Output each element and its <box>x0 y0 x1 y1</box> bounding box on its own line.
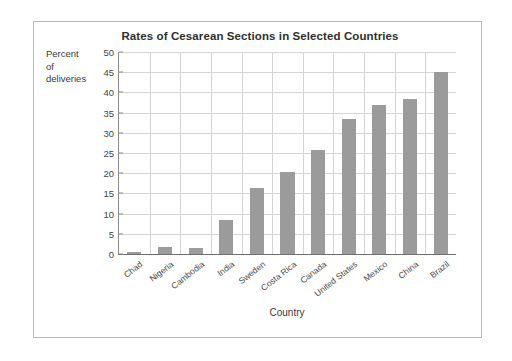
y-tick-mark <box>119 213 123 214</box>
y-tick-mark <box>119 112 123 113</box>
x-axis-title: Country <box>118 307 456 318</box>
y-tick-label: 30 <box>103 127 114 138</box>
y-tick-mark <box>119 153 123 154</box>
bar-mexico[interactable] <box>372 105 386 254</box>
y-tick-mark <box>119 72 123 73</box>
bar-united-states[interactable] <box>342 119 356 254</box>
bar-nigeria[interactable] <box>158 247 172 254</box>
bar-brazil[interactable] <box>434 72 448 254</box>
plot-area: 05101520253035404550 <box>118 52 456 255</box>
gridline-vertical <box>333 52 334 254</box>
bar-sweden[interactable] <box>250 188 264 254</box>
bar-cambodia[interactable] <box>189 248 203 254</box>
y-tick-mark <box>119 233 123 234</box>
y-tick-label: 25 <box>103 148 114 159</box>
y-tick-label: 15 <box>103 188 114 199</box>
y-tick-mark <box>119 132 123 133</box>
gridline-vertical <box>150 52 151 254</box>
gridline-horizontal <box>119 72 456 73</box>
bar-china[interactable] <box>403 99 417 254</box>
gridline-vertical <box>364 52 365 254</box>
y-axis-caption: Percent of deliveries <box>46 48 86 86</box>
y-tick-label: 45 <box>103 67 114 78</box>
bar-chad[interactable] <box>127 252 141 254</box>
gridline-horizontal <box>119 52 456 53</box>
gridline-vertical <box>242 52 243 254</box>
y-tick-label: 10 <box>103 208 114 219</box>
bar-india[interactable] <box>219 220 233 254</box>
gridline-vertical <box>211 52 212 254</box>
gridline-vertical <box>180 52 181 254</box>
y-axis-caption-line-1: Percent <box>46 48 86 61</box>
gridline-vertical <box>425 52 426 254</box>
y-tick-label: 35 <box>103 107 114 118</box>
y-tick-label: 40 <box>103 87 114 98</box>
y-tick-mark <box>119 92 123 93</box>
y-tick-label: 0 <box>109 249 114 260</box>
y-tick-label: 50 <box>103 47 114 58</box>
bar-canada[interactable] <box>311 150 325 254</box>
y-tick-label: 5 <box>109 228 114 239</box>
y-tick-mark <box>119 173 123 174</box>
bar-costa-rica[interactable] <box>280 172 294 254</box>
chart-title: Rates of Cesarean Sections in Selected C… <box>100 30 420 42</box>
y-tick-mark <box>119 254 123 255</box>
gridline-horizontal <box>119 92 456 93</box>
y-tick-mark <box>119 52 123 53</box>
y-tick-label: 20 <box>103 168 114 179</box>
gridline-vertical <box>272 52 273 254</box>
y-tick-mark <box>119 193 123 194</box>
gridline-vertical <box>303 52 304 254</box>
y-axis-caption-line-2: of <box>46 61 86 74</box>
gridline-vertical <box>395 52 396 254</box>
y-axis-caption-line-3: deliveries <box>46 73 86 86</box>
